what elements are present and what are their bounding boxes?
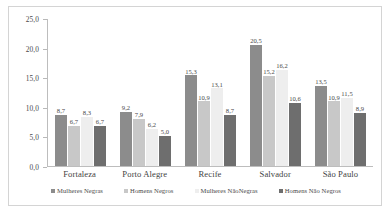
legend-swatch-icon — [124, 189, 128, 193]
bar-slot: 20,5 — [250, 19, 262, 166]
bar-slot: 10,9 — [198, 19, 210, 166]
legend-item-label: Homens Negros — [130, 187, 173, 194]
bar[interactable]: 6,7 — [68, 126, 80, 166]
bar-value-label: 8,7 — [57, 108, 65, 115]
bar[interactable]: 8,3 — [81, 117, 93, 166]
bar-slot: 13,1 — [211, 19, 223, 166]
bar-group-bars: 20,515,216,210,6 — [243, 19, 308, 166]
bar[interactable]: 15,2 — [263, 76, 275, 166]
bar[interactable]: 10,9 — [328, 101, 340, 166]
bar[interactable]: 11,5 — [341, 98, 353, 166]
bar-slot: 8,9 — [354, 19, 366, 166]
legend-item-label: Mulheres NãoNegras — [201, 187, 258, 194]
bar-value-label: 10,9 — [198, 95, 210, 102]
x-axis-category-label: Recife — [177, 169, 242, 179]
y-axis-tick-label: 0,0 — [29, 163, 39, 172]
bar-slot: 5,0 — [159, 19, 171, 166]
bar-value-label: 9,2 — [122, 105, 130, 112]
bar-slot: 6,7 — [68, 19, 80, 166]
bar-group-bars: 8,76,78,36,7 — [48, 19, 113, 166]
bar[interactable]: 13,1 — [211, 88, 223, 166]
bar[interactable]: 16,2 — [276, 70, 288, 166]
chart-frame: 0,05,010,015,020,025,0 8,76,78,36,79,27,… — [8, 6, 382, 206]
bar[interactable]: 8,7 — [224, 115, 236, 167]
x-axis-line — [47, 166, 373, 167]
bar[interactable]: 13,5 — [315, 86, 327, 166]
legend-swatch-icon — [279, 189, 283, 193]
bar-slot: 8,7 — [55, 19, 67, 166]
bar-value-label: 6,7 — [96, 119, 104, 126]
bar-slot: 7,9 — [133, 19, 145, 166]
y-axis-tick-label: 5,0 — [29, 133, 39, 142]
bar-slot: 6,7 — [94, 19, 106, 166]
bar-value-label: 5,0 — [161, 129, 169, 136]
bar-slot: 10,6 — [289, 19, 301, 166]
bar-value-label: 16,2 — [276, 63, 288, 70]
x-axis-category-label: Fortaleza — [47, 169, 112, 179]
bar-slot: 11,5 — [341, 19, 353, 166]
bar-slot: 6,2 — [146, 19, 158, 166]
bar-group-bars: 15,310,913,18,7 — [178, 19, 243, 166]
bar-slot: 10,9 — [328, 19, 340, 166]
bar-slot: 8,3 — [81, 19, 93, 166]
bar-slot: 8,7 — [224, 19, 236, 166]
x-axis-category-label: Salvador — [243, 169, 308, 179]
x-axis-category-label: Porto Alegre — [112, 169, 177, 179]
legend-swatch-icon — [195, 189, 199, 193]
bar-value-label: 13,5 — [315, 79, 327, 86]
bar-value-label: 8,3 — [83, 110, 91, 117]
y-axis: 0,05,010,015,020,025,0 — [11, 19, 43, 167]
bar-group: 20,515,216,210,6 — [243, 19, 308, 166]
x-axis-category-labels: FortalezaPorto AlegreRecifeSalvadorSão P… — [47, 169, 373, 179]
legend-item-label: Mulheres Negras — [57, 187, 103, 194]
x-axis-category-label: São Paulo — [308, 169, 373, 179]
y-axis-tick-label: 25,0 — [26, 15, 39, 24]
bar[interactable]: 5,0 — [159, 136, 171, 166]
bar-slot: 15,3 — [185, 19, 197, 166]
chart-legend: Mulheres NegrasHomens NegrosMulheres Não… — [27, 187, 365, 194]
bar[interactable]: 9,2 — [120, 112, 132, 166]
bar-value-label: 15,3 — [185, 69, 197, 76]
y-axis-tick-mark — [43, 167, 47, 168]
bar-group: 8,76,78,36,7 — [48, 19, 113, 166]
legend-item[interactable]: Mulheres Negras — [51, 187, 103, 194]
bar[interactable]: 15,3 — [185, 75, 197, 166]
bar-slot: 16,2 — [276, 19, 288, 166]
bar[interactable]: 20,5 — [250, 45, 262, 166]
y-axis-tick-label: 15,0 — [26, 74, 39, 83]
bar-slot: 9,2 — [120, 19, 132, 166]
bar-value-label: 11,5 — [341, 91, 353, 98]
bar-slot: 15,2 — [263, 19, 275, 166]
bar-value-label: 10,9 — [328, 95, 340, 102]
bar-value-label: 7,9 — [135, 112, 143, 119]
bar-group: 15,310,913,18,7 — [178, 19, 243, 166]
bar-value-label: 6,7 — [70, 119, 78, 126]
bar-slot: 13,5 — [315, 19, 327, 166]
bar-value-label: 6,2 — [148, 122, 156, 129]
bar[interactable]: 10,6 — [289, 103, 301, 166]
legend-item-label: Homens Não Negros — [285, 187, 341, 194]
legend-item[interactable]: Homens Não Negros — [279, 187, 341, 194]
bar-groups: 8,76,78,36,79,27,96,25,015,310,913,18,72… — [48, 19, 373, 166]
legend-item[interactable]: Homens Negros — [124, 187, 173, 194]
y-axis-tick-label: 20,0 — [26, 44, 39, 53]
bar-group: 9,27,96,25,0 — [113, 19, 178, 166]
bar-value-label: 20,5 — [250, 38, 262, 45]
bar-group-bars: 13,510,911,58,9 — [308, 19, 373, 166]
legend-swatch-icon — [51, 189, 55, 193]
bar[interactable]: 8,9 — [354, 113, 366, 166]
bar[interactable]: 7,9 — [133, 119, 145, 166]
bar[interactable]: 6,7 — [94, 126, 106, 166]
bar[interactable]: 6,2 — [146, 129, 158, 166]
legend-item[interactable]: Mulheres NãoNegras — [195, 187, 258, 194]
plot-area: 0,05,010,015,020,025,0 8,76,78,36,79,27,… — [47, 19, 373, 167]
bar-value-label: 8,9 — [356, 106, 364, 113]
y-axis-tick-label: 10,0 — [26, 103, 39, 112]
bar-group-bars: 9,27,96,25,0 — [113, 19, 178, 166]
bar-group: 13,510,911,58,9 — [308, 19, 373, 166]
bar[interactable]: 10,9 — [198, 101, 210, 166]
bar-value-label: 13,1 — [211, 82, 223, 89]
bar-value-label: 8,7 — [226, 108, 234, 115]
bar-value-label: 15,2 — [263, 69, 275, 76]
bar[interactable]: 8,7 — [55, 115, 67, 167]
